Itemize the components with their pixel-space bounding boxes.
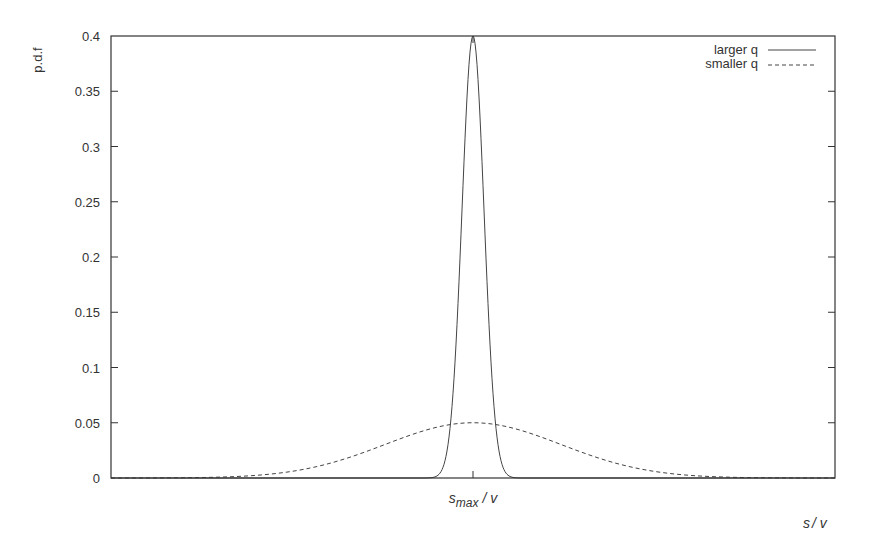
legend-label-smaller-q: smaller q	[705, 56, 758, 71]
pdf-chart: 00.050.10.150.20.250.30.350.4 smax / v p…	[0, 0, 869, 558]
y-axis-label: p.d.f	[30, 47, 45, 73]
x-tick-label-smax: smax / v	[449, 490, 498, 510]
x-axis-label-s: s	[803, 515, 810, 531]
y-tick-label: 0.25	[75, 195, 100, 210]
legend: larger q smaller q	[705, 42, 816, 71]
y-tick-label: 0	[93, 471, 100, 486]
y-tick-label: 0.1	[82, 361, 100, 376]
y-tick-label: 0.35	[75, 84, 100, 99]
y-tick-label: 0.15	[75, 305, 100, 320]
y-tick-label: 0.2	[82, 250, 100, 265]
curve-larger-q	[111, 36, 835, 478]
y-tick-label: 0.3	[82, 140, 100, 155]
x-axis-ticks: smax / v	[449, 36, 498, 510]
y-tick-label: 0.4	[82, 29, 100, 44]
legend-label-larger-q: larger q	[714, 42, 758, 57]
x-axis-label: s/ v	[803, 515, 828, 531]
y-tick-label: 0.05	[75, 416, 100, 431]
y-axis-ticks: 00.050.10.150.20.250.30.350.4	[75, 29, 835, 486]
plot-frame	[111, 36, 835, 478]
curve-smaller-q	[111, 423, 835, 478]
x-axis-label-rest: / v	[811, 515, 828, 531]
plot-curves	[111, 36, 835, 478]
